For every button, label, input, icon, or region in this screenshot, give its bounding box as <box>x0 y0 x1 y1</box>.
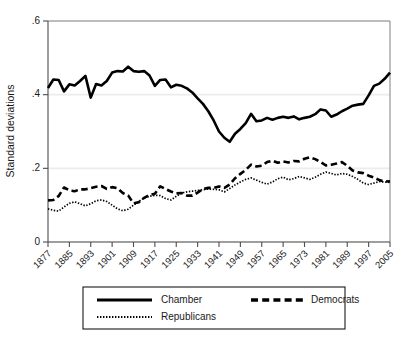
legend-label-republicans: Republicans <box>161 311 216 322</box>
chart-figure: 0.2.4.6 18771885189319011909191719251933… <box>0 0 408 343</box>
chart-legend: Chamber Democrats Republicans <box>83 287 359 329</box>
y-tick-label: .2 <box>32 162 41 173</box>
y-tick-label: 0 <box>34 236 40 247</box>
chart-canvas: 0.2.4.6 18771885189319011909191719251933… <box>0 0 408 343</box>
legend-label-democrats: Democrats <box>311 294 359 305</box>
legend-label-chamber: Chamber <box>161 294 203 305</box>
legend-box <box>83 287 345 329</box>
y-axis-title: Standard deviations <box>4 85 16 178</box>
y-tick-label: .6 <box>32 15 41 26</box>
y-tick-label: .4 <box>32 88 41 99</box>
